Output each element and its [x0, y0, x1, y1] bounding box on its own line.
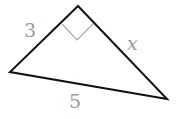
label-hypotenuse: 5 [69, 90, 81, 112]
label-leg-left: 3 [24, 19, 36, 41]
triangle-diagram: 3 x 5 [0, 0, 177, 119]
label-leg-right: x [127, 32, 138, 54]
right-angle-marker [62, 24, 93, 40]
